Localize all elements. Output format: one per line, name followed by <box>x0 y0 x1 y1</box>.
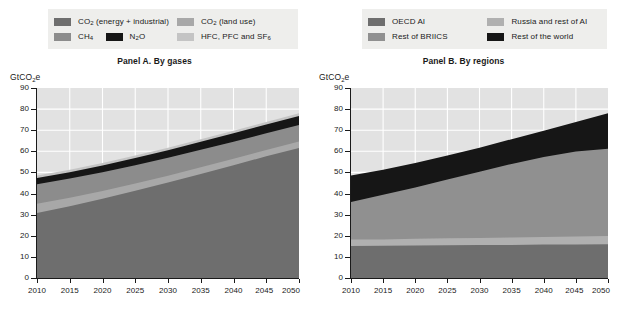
y-tick-label: 0 <box>317 274 343 282</box>
legend-item-hfc-pfc-sf6[interactable]: HFC, PFC and SF6 <box>177 32 294 42</box>
x-tick-label: 2050 <box>584 286 618 295</box>
x-tick <box>201 279 202 283</box>
y-tick <box>31 215 36 216</box>
x-tick <box>544 279 545 283</box>
y-tick <box>345 194 350 195</box>
legend-item-ch4[interactable]: CH4 <box>54 32 106 42</box>
y-tick-label: 10 <box>317 253 343 261</box>
y-tick-label: 70 <box>317 126 343 134</box>
panel-b-y-axis-line <box>350 88 351 279</box>
panel-b-title: Panel B. By regions <box>309 56 618 66</box>
legend-item-rest-of-briics[interactable]: Rest of BRIICS <box>368 32 487 41</box>
x-tick <box>351 279 352 283</box>
x-tick <box>447 279 448 283</box>
legend-label-ch4: CH4 <box>78 32 93 42</box>
x-tick <box>70 279 71 283</box>
y-tick-label: 50 <box>317 168 343 176</box>
legend-swatch-co2-energy-industrial <box>54 18 71 26</box>
x-tick-label: 2050 <box>274 286 308 295</box>
x-tick <box>576 279 577 283</box>
x-tick <box>415 279 416 283</box>
x-tick-label: 2040 <box>527 286 561 295</box>
legend-label-rest-of-the-world: Rest of the world <box>511 32 573 41</box>
y-tick-label: 80 <box>3 105 29 113</box>
panel-a-plot-area <box>37 88 299 278</box>
y-tick-label: 30 <box>3 211 29 219</box>
legend-item-n2o[interactable]: N2O <box>106 32 177 42</box>
legend-label-oecd-ai: OECD AI <box>392 17 425 26</box>
x-tick-label: 2020 <box>398 286 432 295</box>
x-tick <box>299 279 300 283</box>
legend-item-rest-of-the-world[interactable]: Rest of the world <box>487 32 603 41</box>
y-tick-label: 40 <box>3 190 29 198</box>
y-tick-label: 20 <box>317 232 343 240</box>
y-tick <box>345 278 350 279</box>
x-tick-label: 2025 <box>430 286 464 295</box>
y-tick <box>31 257 36 258</box>
y-tick-label: 50 <box>3 168 29 176</box>
x-tick <box>608 279 609 283</box>
panel-b-chart-svg <box>351 88 608 278</box>
legend-label-co2-energy-industrial: CO2 (energy + industrial) <box>78 17 169 27</box>
y-tick-label: 20 <box>3 232 29 240</box>
y-tick-label: 70 <box>3 126 29 134</box>
x-tick-label: 2010 <box>20 286 54 295</box>
x-tick-label: 2035 <box>184 286 218 295</box>
legend-swatch-hfc-pfc-sf6 <box>177 33 194 41</box>
x-tick <box>37 279 38 283</box>
x-tick-label: 2010 <box>334 286 368 295</box>
panel-a-y-axis-line <box>36 88 37 279</box>
y-tick-label: 80 <box>317 105 343 113</box>
y-tick <box>345 215 350 216</box>
y-tick-label: 60 <box>317 147 343 155</box>
x-tick <box>135 279 136 283</box>
legend-item-russia-rest-ai[interactable]: Russia and rest of AI <box>487 17 603 26</box>
area-oecd-ai <box>351 244 608 278</box>
x-tick-label: 2030 <box>151 286 185 295</box>
x-tick <box>383 279 384 283</box>
x-tick <box>480 279 481 283</box>
y-tick <box>31 88 36 89</box>
y-tick <box>31 172 36 173</box>
x-tick-label: 2030 <box>463 286 497 295</box>
y-tick <box>345 88 350 89</box>
legend-swatch-oecd-ai <box>368 18 385 26</box>
y-tick-label: 10 <box>3 253 29 261</box>
legend-row: CH4 N2O HFC, PFC and SF6 <box>54 29 294 44</box>
y-tick <box>345 151 350 152</box>
legend-label-co2-land-use: CO2 (land use) <box>201 17 256 27</box>
y-tick <box>31 278 36 279</box>
panel-b: OECD AI Russia and rest of AI Rest of BR… <box>309 0 618 310</box>
x-tick-label: 2015 <box>366 286 400 295</box>
panel-b-y-axis: 90 80 70 60 50 40 30 20 10 0 <box>309 0 343 310</box>
y-tick-label: 30 <box>317 211 343 219</box>
legend-item-oecd-ai[interactable]: OECD AI <box>368 17 487 26</box>
figure-ghg-emissions: CO2 (energy + industrial) CO2 (land use)… <box>0 0 618 310</box>
legend-item-co2-energy-industrial[interactable]: CO2 (energy + industrial) <box>54 17 177 27</box>
y-tick-label: 90 <box>3 84 29 92</box>
y-tick-label: 0 <box>3 274 29 282</box>
y-tick <box>345 257 350 258</box>
y-tick <box>345 130 350 131</box>
x-tick <box>168 279 169 283</box>
y-tick <box>345 109 350 110</box>
legend-panel-a: CO2 (energy + industrial) CO2 (land use)… <box>48 9 298 49</box>
legend-label-rest-of-briics: Rest of BRIICS <box>392 32 448 41</box>
y-tick <box>31 236 36 237</box>
legend-swatch-co2-land-use <box>177 18 194 26</box>
legend-swatch-ch4 <box>54 33 71 41</box>
y-tick <box>31 130 36 131</box>
x-tick-label: 2025 <box>118 286 152 295</box>
y-tick <box>31 109 36 110</box>
panel-a: CO2 (energy + industrial) CO2 (land use)… <box>0 0 309 310</box>
y-tick <box>31 151 36 152</box>
y-tick <box>345 172 350 173</box>
x-tick <box>266 279 267 283</box>
legend-row: CO2 (energy + industrial) CO2 (land use) <box>54 14 294 29</box>
x-tick-label: 2035 <box>495 286 529 295</box>
legend-row: Rest of BRIICS Rest of the world <box>368 29 603 44</box>
legend-panel-b: OECD AI Russia and rest of AI Rest of BR… <box>362 9 607 49</box>
legend-swatch-russia-rest-ai <box>487 18 504 26</box>
panel-a-y-axis: 90 80 70 60 50 40 30 20 10 0 <box>0 0 29 310</box>
legend-item-co2-land-use[interactable]: CO2 (land use) <box>177 17 294 27</box>
